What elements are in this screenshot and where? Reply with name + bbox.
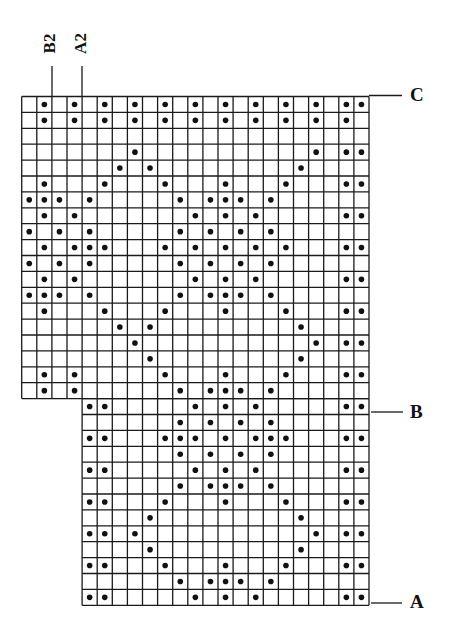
- stitch-dot: [253, 404, 259, 410]
- stitch-dot: [253, 277, 259, 283]
- stitch-dot: [117, 324, 123, 330]
- stitch-dot: [238, 579, 244, 585]
- stitch-dot: [42, 292, 48, 298]
- stitch-dot: [102, 118, 108, 124]
- stitch-dot: [223, 388, 229, 394]
- stitch-dot: [162, 499, 168, 505]
- stitch-dot: [193, 102, 199, 108]
- stitch-dot: [132, 531, 138, 537]
- stitch-dot: [238, 292, 244, 298]
- stitch-dot: [162, 308, 168, 314]
- stitch-dot: [162, 372, 168, 378]
- stitch-dot: [102, 404, 108, 410]
- stitch-dot: [208, 292, 214, 298]
- stitch-dot: [344, 340, 350, 346]
- stitch-dot: [42, 213, 48, 219]
- stitch-dot: [193, 245, 199, 251]
- stitch-dot: [344, 531, 350, 537]
- stitch-dot: [162, 436, 168, 442]
- stitch-dot: [193, 595, 199, 601]
- stitch-dot: [42, 277, 48, 283]
- stitch-dot: [283, 563, 289, 569]
- stitch-dot: [72, 372, 78, 378]
- stitch-dot: [283, 436, 289, 442]
- stitch-dot: [238, 229, 244, 235]
- stitch-dot: [117, 165, 123, 171]
- stitch-dot: [344, 102, 350, 108]
- stitch-dot: [147, 356, 153, 362]
- stitch-dot: [193, 118, 199, 124]
- stitch-dot: [313, 118, 319, 124]
- stitch-dot: [57, 292, 63, 298]
- stitch-dot: [344, 595, 350, 601]
- stitch-dot: [223, 467, 229, 473]
- stitch-dot: [177, 292, 183, 298]
- stitch-dot: [283, 372, 289, 378]
- stitch-dot: [223, 404, 229, 410]
- stitch-dot: [147, 515, 153, 521]
- stitch-dot: [57, 229, 63, 235]
- stitch-dot: [162, 102, 168, 108]
- stitch-dot: [208, 388, 214, 394]
- stitch-dot: [283, 102, 289, 108]
- stitch-dot: [208, 483, 214, 489]
- stitch-dot: [359, 499, 365, 505]
- stitch-dot: [177, 261, 183, 267]
- stitch-dot: [72, 277, 78, 283]
- stitch-dot: [344, 436, 350, 442]
- stitch-dot: [223, 245, 229, 251]
- stitch-dot: [238, 261, 244, 267]
- stitch-dot: [162, 563, 168, 569]
- chart-grid: [22, 97, 369, 606]
- stitch-dot: [223, 292, 229, 298]
- stitch-dot: [102, 499, 108, 505]
- stitch-dot: [359, 467, 365, 473]
- stitch-dot: [26, 292, 32, 298]
- stitch-dot: [223, 308, 229, 314]
- stitch-dot: [193, 467, 199, 473]
- stitch-dot: [87, 261, 93, 267]
- stitch-dot: [87, 245, 93, 251]
- stitch-dot: [87, 563, 93, 569]
- marker-label-a: A: [410, 592, 424, 611]
- stitch-dot: [177, 451, 183, 457]
- stitch-dot: [344, 563, 350, 569]
- stitch-dot: [359, 149, 365, 155]
- stitch-dot: [359, 181, 365, 187]
- stitch-dot: [344, 213, 350, 219]
- stitch-dot: [177, 579, 183, 585]
- stitch-dot: [42, 372, 48, 378]
- stitch-dot: [147, 165, 153, 171]
- stitch-dot: [313, 149, 319, 155]
- stitch-dot: [359, 213, 365, 219]
- stitch-dot: [283, 308, 289, 314]
- stitch-dot: [132, 102, 138, 108]
- stitch-dot: [268, 451, 274, 457]
- stitch-dot: [253, 118, 259, 124]
- stitch-dot: [344, 308, 350, 314]
- stitch-dot: [253, 213, 259, 219]
- stitch-dot: [42, 102, 48, 108]
- stitch-dot: [223, 118, 229, 124]
- marker-label-a2: A2: [72, 33, 89, 54]
- stitch-dot: [359, 404, 365, 410]
- stitch-dot: [238, 197, 244, 203]
- knitting-chart: [0, 0, 452, 632]
- stitch-dot: [87, 531, 93, 537]
- stitch-dot: [223, 181, 229, 187]
- stitch-dot: [208, 197, 214, 203]
- stitch-dot: [42, 308, 48, 314]
- stitch-dot: [359, 563, 365, 569]
- stitch-dot: [359, 531, 365, 537]
- stitch-dot: [87, 197, 93, 203]
- stitch-dot: [238, 483, 244, 489]
- stitch-dot: [132, 118, 138, 124]
- stitch-dot: [177, 420, 183, 426]
- stitch-dot: [268, 229, 274, 235]
- stitch-dot: [147, 324, 153, 330]
- stitch-dot: [359, 340, 365, 346]
- stitch-dot: [223, 579, 229, 585]
- stitch-dot: [268, 483, 274, 489]
- stitch-dot: [253, 595, 259, 601]
- stitch-dot: [147, 547, 153, 553]
